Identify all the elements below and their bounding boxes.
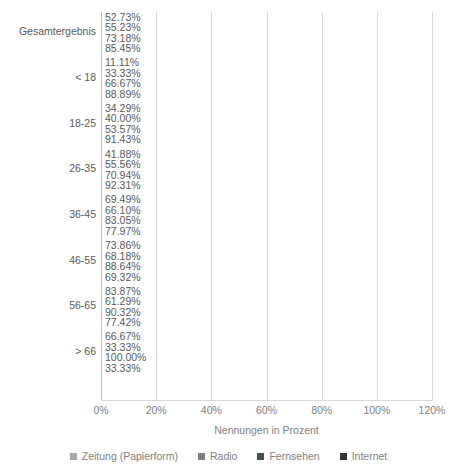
legend-swatch-icon [198, 453, 205, 460]
x-tick-label: 60% [256, 404, 277, 416]
x-tick-label: 120% [419, 404, 446, 416]
bar-value-label: 92.31% [101, 179, 141, 191]
bar-chart: Gesamtergebnis< 1818-2526-3536-4546-5556… [0, 0, 457, 475]
bar-value-label: 85.45% [101, 42, 141, 54]
x-axis-line [101, 400, 432, 401]
category-label: 26-35 [69, 162, 96, 174]
category-label: 18-25 [69, 117, 96, 129]
bar-value-label: 33.33% [101, 362, 141, 374]
bar-group: 83.87%61.29%90.32%77.42% [101, 286, 432, 327]
x-tick-label: 20% [146, 404, 167, 416]
x-tick-label: 80% [311, 404, 332, 416]
bar-value-label: 88.89% [101, 88, 141, 100]
category-label: 56-65 [69, 299, 96, 311]
bar-group: 66.67%33.33%100.00%33.33% [101, 332, 432, 373]
bar-value-label: 91.43% [101, 133, 141, 145]
bar-group: 11.11%33.33%66.67%88.89% [101, 58, 432, 99]
bar-group: 69.49%66.10%83.05%77.97% [101, 195, 432, 236]
gridline-120 [432, 12, 433, 400]
plot-area: 52.73%55.23%73.18%85.45%11.11%33.33%66.6… [101, 12, 432, 400]
x-tick-label: 100% [363, 404, 390, 416]
x-tick-label: 40% [201, 404, 222, 416]
bar-value-label: 77.42% [101, 316, 141, 328]
legend-item[interactable]: Radio [198, 450, 237, 462]
legend-swatch-icon [70, 453, 77, 460]
bar-group: 41.88%55.56%70.94%92.31% [101, 149, 432, 190]
category-label: 36-45 [69, 208, 96, 220]
legend-label: Zeitung (Papierform) [82, 450, 178, 462]
bar-value-label: 69.32% [101, 271, 141, 283]
category-axis-labels: Gesamtergebnis< 1818-2526-3536-4546-5556… [0, 12, 96, 400]
legend-label: Radio [210, 450, 237, 462]
legend-swatch-icon [340, 453, 347, 460]
bar-groups: 52.73%55.23%73.18%85.45%11.11%33.33%66.6… [101, 12, 432, 400]
legend-label: Internet [352, 450, 388, 462]
x-axis-title: Nennungen in Prozent [101, 424, 432, 436]
legend-item[interactable]: Fernsehen [257, 450, 319, 462]
legend-item[interactable]: Zeitung (Papierform) [70, 450, 178, 462]
x-axis-tick-labels: 0%20%40%60%80%100%120% [101, 404, 432, 420]
category-label: > 66 [75, 345, 96, 357]
category-label: Gesamtergebnis [19, 25, 96, 37]
legend-swatch-icon [257, 453, 264, 460]
legend-item[interactable]: Internet [340, 450, 388, 462]
category-label: < 18 [75, 71, 96, 83]
legend: Zeitung (Papierform)RadioFernsehenIntern… [0, 450, 457, 462]
bar-value-label: 77.97% [101, 225, 141, 237]
x-tick-label: 0% [93, 404, 108, 416]
category-label: 46-55 [69, 254, 96, 266]
bar-group: 52.73%55.23%73.18%85.45% [101, 12, 432, 53]
bar-group: 73.86%68.18%88.64%69.32% [101, 241, 432, 282]
legend-label: Fernsehen [269, 450, 319, 462]
bar-group: 34.29%40.00%53.57%91.43% [101, 103, 432, 144]
